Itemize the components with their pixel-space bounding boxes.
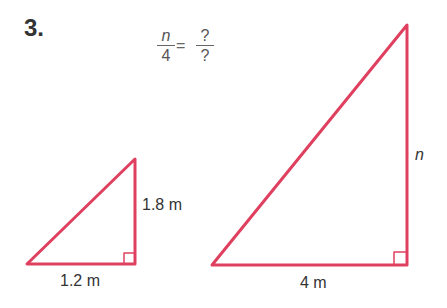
large-triangle [212, 25, 407, 265]
small-triangle-base-label: 1.2 m [60, 272, 100, 290]
small-triangle-height-label: 1.8 m [142, 196, 182, 214]
small-triangle [27, 159, 135, 264]
large-triangle-base-label: 4 m [300, 274, 327, 292]
large-triangle-height-label: n [415, 146, 424, 164]
triangles-figure [0, 0, 447, 308]
